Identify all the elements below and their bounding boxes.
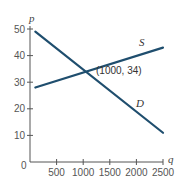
x-tick-label: 1500 xyxy=(99,167,122,178)
origin-label: 0 xyxy=(21,160,27,171)
y-tick-label: 30 xyxy=(14,77,26,88)
equilibrium-label: (1000, 34) xyxy=(96,65,142,76)
y-axis-label: p xyxy=(28,12,35,24)
supply-demand-chart: 1020304050 5001000150020002500 0 p q S D… xyxy=(0,0,183,182)
x-tick-label: 500 xyxy=(48,167,65,178)
x-tick-label: 2000 xyxy=(125,167,148,178)
chart-canvas: 1020304050 5001000150020002500 0 p q S D… xyxy=(0,0,183,182)
supply-curve-label: S xyxy=(139,36,145,48)
demand-curve-label: D xyxy=(135,97,144,109)
x-tick-label: 2500 xyxy=(152,167,175,178)
y-tick-label: 20 xyxy=(14,103,26,114)
y-tick-label: 10 xyxy=(14,130,26,141)
y-tick-label: 40 xyxy=(14,50,26,61)
x-axis-label: q xyxy=(168,153,174,165)
y-tick-label: 50 xyxy=(14,24,26,35)
x-tick-label: 1000 xyxy=(72,167,95,178)
